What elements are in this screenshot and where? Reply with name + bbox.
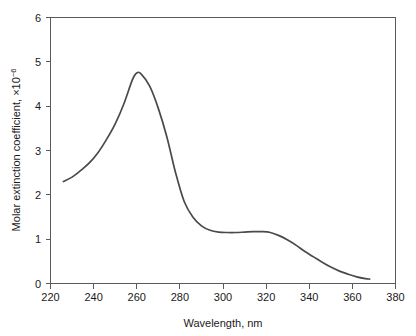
x-tick-label: 320 [257, 291, 275, 303]
y-axis-title-text: Molar extinction coefficient, ×10 [10, 77, 22, 231]
y-axis-title-exponent: −6 [9, 69, 18, 78]
x-tick-labels: 220 240 260 280 300 320 340 360 380 [41, 291, 404, 303]
y-tick-label: 6 [35, 12, 41, 24]
y-tick-label: 3 [35, 145, 41, 157]
chart-background [0, 0, 416, 336]
x-tick-label: 380 [386, 291, 404, 303]
x-tick-label: 260 [128, 291, 146, 303]
x-tick-label: 280 [171, 291, 189, 303]
y-tick-label: 0 [35, 278, 41, 290]
x-tick-label: 360 [343, 291, 361, 303]
uv-absorption-spectrum-chart: 220 240 260 280 300 320 340 360 380 0 1 … [0, 0, 416, 336]
y-tick-label: 4 [35, 100, 41, 112]
y-tick-label: 2 [35, 189, 41, 201]
x-tick-label: 240 [84, 291, 102, 303]
x-tick-label: 340 [300, 291, 318, 303]
y-tick-label: 1 [35, 233, 41, 245]
y-axis-title-group: Molar extinction coefficient, ×10−6 [9, 69, 22, 232]
y-axis-title: Molar extinction coefficient, ×10−6 [9, 69, 22, 232]
x-tick-label: 220 [41, 291, 59, 303]
x-axis-title: Wavelength, nm [183, 317, 262, 329]
x-tick-label: 300 [214, 291, 232, 303]
y-tick-label: 5 [35, 56, 41, 68]
